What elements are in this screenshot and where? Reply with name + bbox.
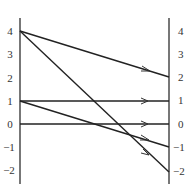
right-tick-label: −1 bbox=[173, 141, 185, 153]
right-tick-label: 0 bbox=[178, 118, 184, 130]
left-tick-label: 2 bbox=[7, 72, 13, 84]
left-tick-label: −2 bbox=[3, 164, 15, 176]
mapping-line-4-to-2 bbox=[20, 31, 169, 77]
left-tick-label: 1 bbox=[7, 95, 13, 107]
right-tick-label: 1 bbox=[178, 94, 184, 106]
right-tick-label: −2 bbox=[173, 165, 185, 177]
right-tick-label: 4 bbox=[178, 25, 184, 37]
left-tick-label: 0 bbox=[7, 118, 13, 130]
right-tick-label: 3 bbox=[178, 48, 184, 60]
right-tick-label: 2 bbox=[178, 71, 184, 83]
left-tick-label: 3 bbox=[7, 48, 13, 60]
left-tick-label: 4 bbox=[7, 25, 13, 37]
mapping-diagram: 4 3 2 1 0 −1 −2 4 3 2 1 0 −1 −2 bbox=[0, 0, 190, 192]
left-tick-label: −1 bbox=[3, 141, 15, 153]
